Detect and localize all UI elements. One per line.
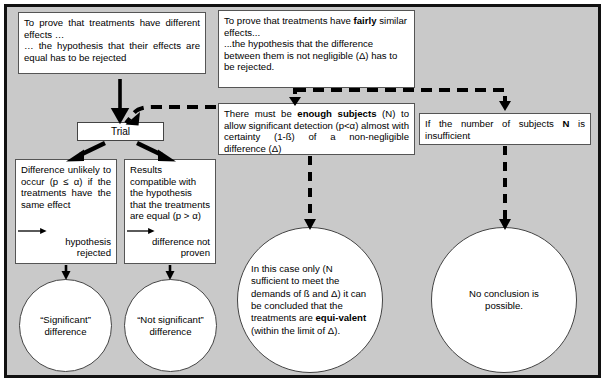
results-compatible-outcome-line2: proven — [128, 247, 210, 259]
results-compatible-outcome-line1: difference not — [128, 236, 210, 248]
box-results-compatible: Results compatible with the hypothesis t… — [124, 159, 216, 264]
circle-significant-difference: “Significant” difference — [19, 279, 112, 372]
not-significant-line2: difference — [137, 326, 204, 338]
significant-line2: difference — [40, 326, 91, 338]
not-significant-line1: “Not significant” — [137, 314, 204, 326]
box-prove-different-effects: To prove that treatments have different … — [18, 12, 206, 74]
prove-different-line2: … the hypothesis that their effects are … — [24, 40, 200, 63]
results-compatible-text: Results compatible with the hypothesis t… — [130, 164, 210, 222]
no-conclusion-line1: No conclusion is — [469, 288, 539, 300]
circle-equivalent-conclusion: In this case only (N sufficient to meet … — [237, 227, 383, 373]
prove-similar-bold: fairly — [354, 15, 377, 26]
box-insufficient-subjects: If the number of subjects N is insuffici… — [419, 113, 591, 145]
circle-not-significant-difference: “Not significant” difference — [124, 279, 217, 372]
box-trial: Trial — [77, 122, 164, 141]
difference-unlikely-outcome-line1: hypothesis — [19, 236, 111, 248]
equivalent-bold: equi-valent — [316, 312, 367, 323]
enough-subjects-text-a: There must be — [224, 108, 297, 119]
box-prove-similar-effects: To prove that treatments have fairly sim… — [218, 10, 415, 88]
prove-similar-text-a: To prove that treatments have — [224, 15, 354, 26]
insufficient-text-a: If the number of subjects — [425, 118, 563, 129]
difference-unlikely-outcome-line2: rejected — [19, 247, 111, 259]
prove-similar-line1: To prove that treatments have fairly sim… — [224, 15, 409, 38]
prove-different-line1: To prove that treatments have different … — [24, 17, 200, 40]
trial-label: Trial — [111, 126, 130, 137]
equivalent-text-b: (within the limit of Δ). — [251, 325, 340, 336]
box-difference-unlikely: Difference unlikely to occur (p ≤ α) if … — [15, 159, 117, 264]
prove-similar-line2: ...the hypothesis that the difference be… — [224, 38, 409, 73]
no-conclusion-line2: possible. — [469, 300, 539, 312]
flowchart-diagram: To prove that treatments have different … — [0, 0, 614, 384]
box-enough-subjects: There must be enough subjects (N) to all… — [218, 103, 415, 155]
significant-line1: “Significant” — [40, 314, 91, 326]
difference-unlikely-text: Difference unlikely to occur (p ≤ α) if … — [21, 164, 111, 210]
enough-subjects-bold: enough subjects — [297, 108, 376, 119]
circle-no-conclusion: No conclusion is possible. — [431, 227, 577, 373]
